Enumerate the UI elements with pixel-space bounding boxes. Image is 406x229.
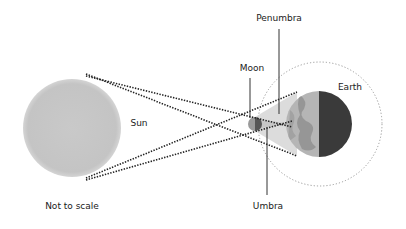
umbra-label: Umbra bbox=[253, 201, 283, 211]
eclipse-diagram bbox=[0, 0, 406, 229]
sun-label: Sun bbox=[130, 118, 147, 128]
moon-label: Moon bbox=[240, 63, 264, 73]
moon-icon bbox=[248, 117, 262, 131]
earth-label: Earth bbox=[338, 82, 362, 92]
sun-icon bbox=[23, 79, 121, 177]
penumbra-label: Penumbra bbox=[256, 13, 302, 23]
earth-icon bbox=[286, 91, 352, 157]
not-to-scale-note: Not to scale bbox=[45, 201, 99, 211]
